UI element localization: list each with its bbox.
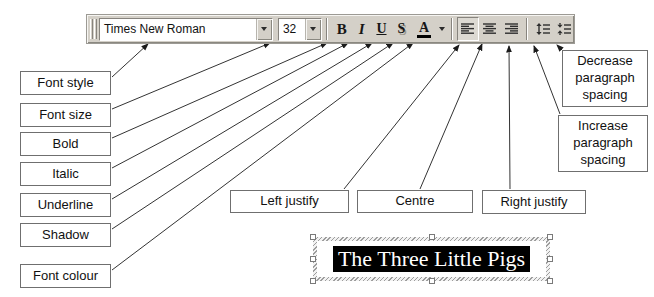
font-name-combobox[interactable]: Times New Roman xyxy=(99,18,273,41)
font-size-combobox[interactable]: 32 xyxy=(278,18,322,41)
callout-label: Right justify xyxy=(500,194,567,211)
resize-handle-middle-left[interactable] xyxy=(310,256,316,262)
arrow-underline xyxy=(112,43,372,199)
align-center-button[interactable] xyxy=(479,17,501,41)
text-box-canvas[interactable]: The Three Little Pigs xyxy=(317,241,546,277)
resize-handle-middle-right[interactable] xyxy=(547,256,553,262)
arrow-right-justify xyxy=(509,46,510,189)
font-color-button[interactable]: A xyxy=(411,17,437,41)
arrow-font-colour xyxy=(112,43,413,270)
resize-handle-bottom-left[interactable] xyxy=(310,278,316,284)
font-name-value[interactable]: Times New Roman xyxy=(100,19,256,40)
callout-label: Font colour xyxy=(33,268,98,285)
arrow-italic xyxy=(112,43,348,168)
font-size-value[interactable]: 32 xyxy=(279,19,305,40)
shadow-button[interactable]: S xyxy=(391,17,411,41)
resize-handle-top-right[interactable] xyxy=(547,234,553,240)
callout-label: Italic xyxy=(52,166,79,183)
resize-handle-bottom-right[interactable] xyxy=(547,278,553,284)
selected-text-box[interactable]: The Three Little Pigs xyxy=(313,237,550,281)
callout-font-size: Font size xyxy=(20,103,111,127)
arrow-font-size xyxy=(112,43,270,109)
increase-paragraph-spacing-button[interactable] xyxy=(532,17,553,41)
callout-font-style: Font style xyxy=(20,71,111,95)
arrow-increase-spacing xyxy=(534,46,560,114)
font-color-dropdown-arrow-icon[interactable] xyxy=(437,17,447,41)
underline-button[interactable]: U xyxy=(372,17,392,41)
toolbar-separator xyxy=(451,18,453,40)
callout-label: Font size xyxy=(39,107,92,124)
resize-handle-bottom-middle[interactable] xyxy=(429,278,435,284)
toolbar-separator xyxy=(526,18,528,40)
toolbar-separator xyxy=(326,18,328,40)
align-right-icon xyxy=(505,23,518,35)
font-name-dropdown-arrow-icon[interactable] xyxy=(256,19,272,40)
arrow-left-justify xyxy=(344,45,459,189)
font-color-letter: A xyxy=(419,21,429,34)
resize-handle-top-left[interactable] xyxy=(310,234,316,240)
callout-italic: Italic xyxy=(20,162,111,186)
callout-label: Bold xyxy=(52,136,78,153)
highlighted-title-text[interactable]: The Three Little Pigs xyxy=(333,246,530,272)
callout-label: Decrease paragraph spacing xyxy=(565,53,645,104)
font-color-bar-icon xyxy=(417,35,431,38)
callout-label: Increase paragraph spacing xyxy=(561,118,645,169)
align-right-button[interactable] xyxy=(501,17,523,41)
formatting-toolbar: Times New Roman 32 B I U S A xyxy=(86,14,575,44)
arrow-bold xyxy=(112,43,327,138)
callout-label: Underline xyxy=(38,197,94,214)
resize-handle-top-middle[interactable] xyxy=(429,234,435,240)
callout-decrease-paragraph-spacing: Decrease paragraph spacing xyxy=(562,50,648,107)
increase-paragraph-spacing-icon xyxy=(536,23,550,35)
callout-font-colour: Font colour xyxy=(20,264,111,288)
decrease-paragraph-spacing-button[interactable] xyxy=(553,17,574,41)
callout-bold: Bold xyxy=(20,132,111,156)
decrease-paragraph-spacing-icon xyxy=(557,23,571,35)
callout-shadow: Shadow xyxy=(20,223,111,247)
callout-label: Shadow xyxy=(42,227,89,244)
callout-right-justify: Right justify xyxy=(482,190,586,214)
align-left-icon xyxy=(461,23,474,35)
callout-underline: Underline xyxy=(20,193,111,217)
arrow-centre xyxy=(420,44,482,189)
bold-button[interactable]: B xyxy=(332,17,352,41)
align-center-icon xyxy=(483,23,496,35)
callout-label: Centre xyxy=(395,193,434,210)
arrow-font-style xyxy=(112,44,148,77)
toolbar-grip-handle[interactable] xyxy=(90,19,97,39)
callout-increase-paragraph-spacing: Increase paragraph spacing xyxy=(558,115,648,172)
callout-centre: Centre xyxy=(357,190,473,213)
align-left-button[interactable] xyxy=(457,17,479,41)
callout-label: Left justify xyxy=(260,193,319,210)
italic-button[interactable]: I xyxy=(352,17,372,41)
callout-left-justify: Left justify xyxy=(230,190,349,213)
font-size-dropdown-arrow-icon[interactable] xyxy=(305,19,321,40)
annotated-toolbar-diagram: Times New Roman 32 B I U S A xyxy=(0,0,654,297)
callout-label: Font style xyxy=(37,75,93,92)
